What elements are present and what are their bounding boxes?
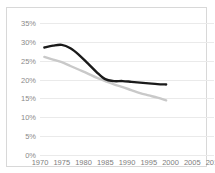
x-axis-tick-label: 1980 [75, 158, 92, 167]
y-axis-tick-label: 35% [21, 19, 36, 28]
y-axis-tick-label: 10% [21, 113, 36, 122]
x-axis-tick-label: 2010 [206, 158, 215, 167]
y-axis-tick-label: 15% [21, 94, 36, 103]
chart-title [0, 0, 215, 1]
chart-screenshot: 35%30%25%20%15%10%5%0% 19701975198019851… [0, 0, 215, 173]
plot-area: 35%30%25%20%15%10%5%0% [40, 23, 214, 155]
series-lines [40, 23, 214, 155]
x-axis-labels: 197019751980198519901995200020052010 [40, 158, 214, 170]
chart-frame: 35%30%25%20%15%10%5%0% 19701975198019851… [6, 7, 207, 167]
y-axis-tick-label: 20% [21, 75, 36, 84]
x-axis-tick-label: 2000 [162, 158, 179, 167]
line-series-dark-line [44, 45, 166, 85]
x-axis-tick-label: 1990 [119, 158, 136, 167]
x-axis-tick-label: 1985 [97, 158, 114, 167]
x-axis-tick-label: 1995 [140, 158, 157, 167]
x-axis-tick-label: 1970 [32, 158, 49, 167]
x-axis-tick-label: 1975 [53, 158, 70, 167]
x-axis-tick-label: 2005 [184, 158, 201, 167]
gridline [40, 155, 214, 156]
y-axis-tick-label: 5% [25, 132, 36, 141]
y-axis-tick-label: 25% [21, 56, 36, 65]
y-axis-tick-label: 30% [21, 37, 36, 46]
